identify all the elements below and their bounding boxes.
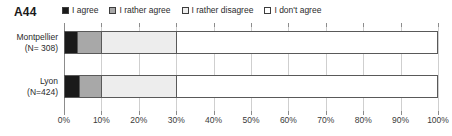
bar-segment[interactable]	[101, 75, 176, 98]
category-sample-size: (N=424)	[0, 87, 58, 98]
category-name: Montpellier	[0, 32, 58, 43]
x-axis-tick-label: 30%	[168, 115, 185, 125]
x-axis-tick-label: 60%	[280, 115, 297, 125]
legend-item-label: I rather agree	[119, 6, 170, 15]
stacked-bar	[64, 75, 438, 98]
bar-segment[interactable]	[101, 31, 176, 54]
axis-tick	[363, 23, 364, 27]
bar-segment[interactable]	[79, 75, 101, 98]
chart-legend: I agreeI rather agreeI rather disagreeI …	[62, 6, 321, 15]
x-axis-tick-label: 10%	[93, 115, 110, 125]
axis-tick	[64, 23, 65, 27]
x-axis-tick-label: 20%	[130, 115, 147, 125]
axis-tick	[401, 23, 402, 27]
x-axis-tick-label: 0%	[58, 115, 70, 125]
x-axis-tick-label: 90%	[392, 115, 409, 125]
bar-segment[interactable]	[176, 31, 438, 54]
legend-swatch-icon	[182, 7, 189, 14]
bar-segment[interactable]	[64, 75, 79, 98]
legend-item[interactable]: I rather disagree	[182, 6, 254, 15]
gridline	[438, 27, 439, 111]
plot-area: 0%10%20%30%40%50%60%70%80%90%100%	[64, 27, 438, 111]
legend-item[interactable]: I rather agree	[109, 6, 170, 15]
x-axis-tick-label: 40%	[205, 115, 222, 125]
axis-tick	[214, 23, 215, 27]
stacked-bar	[64, 31, 438, 54]
legend-swatch-icon	[264, 7, 271, 14]
axis-tick	[251, 23, 252, 27]
category-name: Lyon	[0, 76, 58, 87]
x-axis-tick-label: 80%	[355, 115, 372, 125]
axis-tick	[288, 23, 289, 27]
axis-tick	[139, 23, 140, 27]
y-axis-category-label: Lyon(N=424)	[0, 76, 58, 98]
axis-tick	[438, 23, 439, 27]
x-axis-tick-label: 100%	[427, 115, 449, 125]
axis-tick	[326, 23, 327, 27]
y-axis-category-label: Montpellier(N= 308)	[0, 32, 58, 54]
legend-item-label: I don't agree	[274, 6, 321, 15]
legend-item[interactable]: I don't agree	[264, 6, 321, 15]
legend-swatch-icon	[62, 7, 69, 14]
category-sample-size: (N= 308)	[0, 43, 58, 54]
chart-container: A44 I agreeI rather agreeI rather disagr…	[0, 0, 452, 136]
axis-tick	[101, 23, 102, 27]
bar-row	[64, 75, 438, 98]
x-axis-tick-label: 50%	[242, 115, 259, 125]
legend-item[interactable]: I agree	[62, 6, 98, 15]
bar-segment[interactable]	[64, 31, 77, 54]
axis-tick	[176, 23, 177, 27]
legend-item-label: I agree	[72, 6, 98, 15]
legend-item-label: I rather disagree	[192, 6, 254, 15]
x-axis-tick-label: 70%	[317, 115, 334, 125]
bar-segment[interactable]	[176, 75, 438, 98]
legend-swatch-icon	[109, 7, 116, 14]
bar-row	[64, 31, 438, 54]
bar-segment[interactable]	[77, 31, 101, 54]
page-title: A44	[14, 5, 37, 19]
